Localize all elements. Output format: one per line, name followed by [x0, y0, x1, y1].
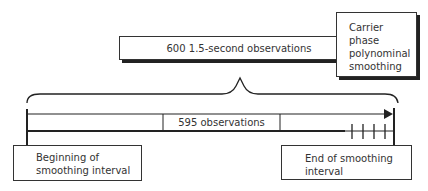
arrowhead-icon: [384, 109, 393, 119]
end-interval-box: End of smoothing interval: [281, 145, 412, 180]
smoothing-method-box: Carrier phase polynominal smoothing: [336, 12, 417, 77]
start-interval-box: Beginning of smoothing interval: [13, 145, 142, 181]
inner-observations-label: 595 observations: [163, 114, 280, 131]
brace-icon: [27, 78, 398, 103]
total-observations-box: 600 1.5-second observations: [119, 36, 359, 60]
